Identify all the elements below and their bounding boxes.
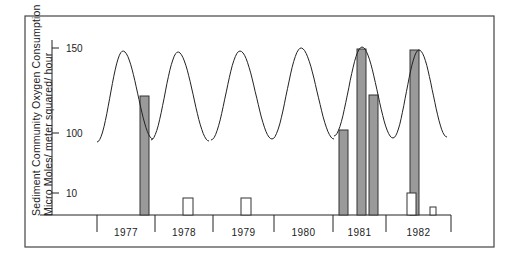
open-bar (183, 198, 193, 215)
y-axis-label-line1: Sediment Community Oxygen Consumption (30, 4, 42, 216)
wave-cycle (151, 52, 209, 141)
y-tick-label: 10 (66, 188, 78, 199)
shaded-bar (369, 95, 378, 215)
open-bar (241, 198, 251, 215)
oxygen-consumption-chart: Sediment Community Oxygen Consumption Mi… (0, 0, 518, 263)
wave-cycle (211, 51, 272, 140)
x-axis-years: 197719781979198019811982 (97, 215, 451, 238)
year-label-1980: 1980 (291, 227, 315, 238)
year-label-1978: 1978 (172, 227, 196, 238)
chart-frame (25, 16, 494, 247)
y-axis-label: Sediment Community Oxygen Consumption Mi… (30, 4, 54, 216)
open-bar (407, 193, 416, 215)
y-tick-label: 100 (66, 128, 83, 139)
open-bar (430, 207, 436, 215)
wave-cycle (272, 48, 334, 139)
shaded-bar (357, 49, 366, 215)
shaded-bar (140, 96, 149, 215)
y-ticks: 15010010 (52, 43, 83, 199)
shaded-bar (339, 130, 348, 215)
year-label-1979: 1979 (231, 227, 255, 238)
wave-cycle (393, 50, 447, 138)
year-label-1977: 1977 (114, 227, 138, 238)
year-label-1982: 1982 (406, 227, 430, 238)
bars (140, 49, 436, 215)
y-tick-label: 150 (66, 43, 83, 54)
axes (40, 40, 451, 215)
year-label-1981: 1981 (347, 227, 371, 238)
shaded-bar (410, 50, 419, 215)
